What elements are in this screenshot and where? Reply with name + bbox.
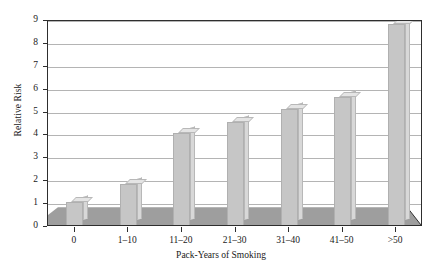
bar-top-face bbox=[393, 20, 415, 24]
bar-side-face bbox=[405, 20, 410, 220]
x-tick-label: >50 bbox=[365, 236, 425, 246]
bar-top-face bbox=[71, 197, 93, 202]
y-tick-label: 7 bbox=[0, 61, 38, 71]
bar-front-face bbox=[227, 122, 244, 225]
y-tick-label: 3 bbox=[0, 152, 38, 162]
x-tick-label: 41–50 bbox=[312, 236, 372, 246]
bar bbox=[66, 202, 83, 225]
bar-front-face bbox=[173, 133, 190, 225]
bar bbox=[173, 133, 190, 225]
gridline bbox=[48, 90, 421, 91]
gridline bbox=[48, 113, 421, 114]
y-tick-label: 9 bbox=[0, 15, 38, 25]
bar-top-face bbox=[286, 104, 308, 109]
y-tick-label: 0 bbox=[0, 221, 38, 231]
bar bbox=[281, 109, 298, 225]
y-tick-label: 4 bbox=[0, 129, 38, 139]
y-tick-label: 2 bbox=[0, 175, 38, 185]
y-tick-label: 1 bbox=[0, 198, 38, 208]
x-tick-mark bbox=[74, 227, 75, 232]
bar-side-face bbox=[351, 90, 356, 220]
bar-front-face bbox=[334, 97, 351, 225]
bar-top-face bbox=[232, 117, 254, 122]
gridline bbox=[48, 44, 421, 45]
bar-chart-figure: Relative Risk 0123456789 01–1011–2021–30… bbox=[0, 0, 442, 270]
bar-front-face bbox=[281, 109, 298, 225]
y-tick-label: 8 bbox=[0, 38, 38, 48]
bar-top-face bbox=[178, 128, 200, 133]
x-tick-mark bbox=[181, 227, 182, 232]
bar bbox=[388, 24, 405, 225]
gridline bbox=[48, 67, 421, 68]
x-tick-mark bbox=[288, 227, 289, 232]
x-tick-label: 21–30 bbox=[205, 236, 265, 246]
bar-side-face bbox=[298, 103, 303, 220]
bar bbox=[120, 184, 137, 225]
y-tick-label: 5 bbox=[0, 107, 38, 117]
x-tick-label: 11–20 bbox=[151, 236, 211, 246]
x-tick-mark bbox=[235, 227, 236, 232]
bar-front-face bbox=[388, 24, 405, 225]
x-tick-label: 1–10 bbox=[97, 236, 157, 246]
bar-side-face bbox=[190, 127, 195, 220]
bar-side-face bbox=[244, 116, 249, 220]
plot-area bbox=[47, 20, 422, 226]
x-tick-mark bbox=[127, 227, 128, 232]
x-tick-mark bbox=[395, 227, 396, 232]
y-tick-label: 6 bbox=[0, 84, 38, 94]
gridline bbox=[48, 21, 421, 22]
bar bbox=[334, 97, 351, 225]
bar-front-face bbox=[66, 202, 83, 225]
bar-front-face bbox=[120, 184, 137, 225]
x-axis-title: Pack-Years of Smoking bbox=[0, 250, 442, 260]
bar-top-face bbox=[125, 179, 147, 184]
x-tick-label: 31–40 bbox=[258, 236, 318, 246]
x-tick-label: 0 bbox=[44, 236, 104, 246]
bar-top-face bbox=[339, 92, 361, 97]
bar bbox=[227, 122, 244, 225]
x-tick-mark bbox=[342, 227, 343, 232]
